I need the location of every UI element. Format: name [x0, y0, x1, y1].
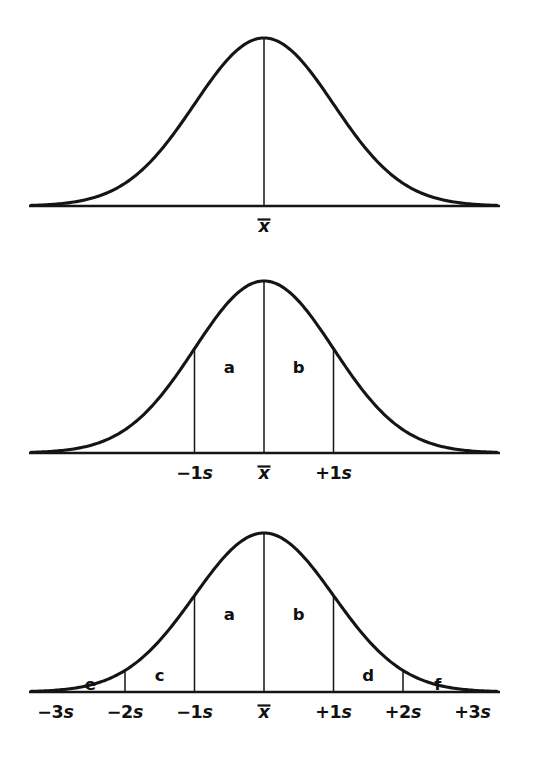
- tick-label-mean: x: [257, 463, 270, 483]
- area-label-a: a: [224, 358, 235, 377]
- area-label-a: a: [224, 605, 235, 624]
- area-label-e: e: [85, 675, 96, 694]
- panel-1-svg: x: [0, 0, 549, 258]
- area-label-f: f: [434, 675, 442, 694]
- normal-curve-panel-one-sigma: −1sx+1sab: [0, 258, 549, 506]
- normal-curve-panel-three-sigma: −3s−2s−1sx+1s+2s+3secabdf: [0, 506, 549, 770]
- panel-2-svg: −1sx+1sab: [0, 258, 549, 506]
- tick-label-sigma: +2s: [385, 702, 422, 722]
- area-label-c: c: [155, 666, 165, 685]
- tick-label-sigma: −2s: [107, 702, 144, 722]
- tick-label-sigma: +3s: [454, 702, 491, 722]
- tick-label-sigma: −3s: [37, 702, 74, 722]
- area-label-b: b: [293, 605, 305, 624]
- area-label-b: b: [293, 358, 305, 377]
- tick-label-mean: x: [257, 216, 270, 236]
- tick-label-sigma: +1s: [315, 463, 352, 483]
- normal-curve-panel-plain: x: [0, 0, 549, 258]
- area-label-d: d: [362, 666, 374, 685]
- tick-label-sigma: +1s: [315, 702, 352, 722]
- panel-3-svg: −3s−2s−1sx+1s+2s+3secabdf: [0, 506, 549, 770]
- tick-label-mean: x: [257, 702, 270, 722]
- tick-label-sigma: −1s: [176, 702, 213, 722]
- tick-label-sigma: −1s: [176, 463, 213, 483]
